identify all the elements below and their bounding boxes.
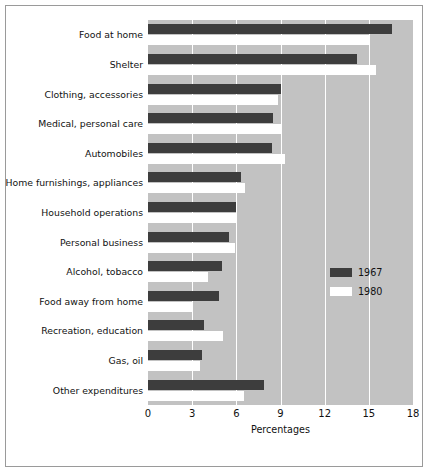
bar-1980 xyxy=(148,183,245,193)
bar-1967 xyxy=(148,320,204,330)
bar-1967 xyxy=(148,143,272,153)
bar-1980 xyxy=(148,302,192,312)
bar-1967 xyxy=(148,261,222,271)
gridline-15 xyxy=(369,20,370,405)
category-label: Food at home xyxy=(79,29,143,40)
category-label: Automobiles xyxy=(85,148,143,159)
legend-swatch-icon xyxy=(330,287,352,296)
category-label: Other expenditures xyxy=(53,385,143,396)
bar-1967 xyxy=(148,291,219,301)
x-tick-label: 15 xyxy=(357,408,381,419)
x-tick-label: 0 xyxy=(136,408,160,419)
bar-1967 xyxy=(148,54,357,64)
bar-1980 xyxy=(148,35,369,45)
bar-1980 xyxy=(148,213,236,223)
category-label: Alcohol, tobacco xyxy=(66,266,143,277)
category-label: Household operations xyxy=(41,207,143,218)
x-tick-label: 18 xyxy=(401,408,425,419)
bar-1980 xyxy=(148,272,208,282)
category-label: Gas, oil xyxy=(108,355,143,366)
x-tick-label: 3 xyxy=(180,408,204,419)
bar-1967 xyxy=(148,113,273,123)
legend-label: 1980 xyxy=(358,285,382,298)
gridline-9 xyxy=(281,20,282,405)
gridline-12 xyxy=(325,20,326,405)
category-label: Medical, personal care xyxy=(38,118,143,129)
bar-1980 xyxy=(148,65,376,75)
category-label: Home furnishings, appliances xyxy=(5,177,143,188)
category-label: Food away from home xyxy=(39,296,143,307)
legend-swatch-icon xyxy=(330,268,352,277)
legend: 19671980 xyxy=(330,266,398,306)
category-label: Clothing, accessories xyxy=(44,89,143,100)
bar-1967 xyxy=(148,24,392,34)
category-label: Personal business xyxy=(60,237,143,248)
x-axis-title: Percentages xyxy=(148,424,413,435)
bar-1980 xyxy=(148,124,282,134)
bar-1967 xyxy=(148,350,202,360)
x-tick-label: 12 xyxy=(313,408,337,419)
bar-1967 xyxy=(148,172,241,182)
plot-area xyxy=(148,20,413,405)
category-label: Shelter xyxy=(110,59,143,70)
bar-1980 xyxy=(148,95,278,105)
x-tick-label: 9 xyxy=(269,408,293,419)
bar-1980 xyxy=(148,391,244,401)
bar-1980 xyxy=(148,331,223,341)
bar-1980 xyxy=(148,243,235,253)
category-axis-labels: Food at homeShelterClothing, accessories… xyxy=(0,20,143,405)
bar-1967 xyxy=(148,84,281,94)
x-tick-label: 6 xyxy=(224,408,248,419)
bar-1980 xyxy=(148,361,200,371)
bar-1967 xyxy=(148,380,264,390)
bar-1967 xyxy=(148,232,229,242)
bar-1967 xyxy=(148,202,236,212)
chart-figure: Food at homeShelterClothing, accessories… xyxy=(0,0,429,473)
legend-label: 1967 xyxy=(358,266,382,279)
category-label: Recreation, education xyxy=(41,325,143,336)
bar-1980 xyxy=(148,154,285,164)
